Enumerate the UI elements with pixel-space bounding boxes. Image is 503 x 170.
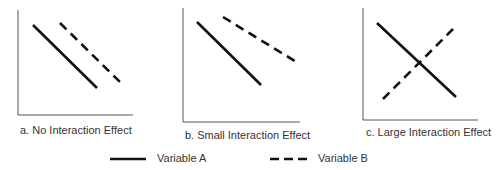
panel-a-variable-b-line (60, 23, 122, 84)
panel-b (183, 8, 300, 122)
panel-b-caption: b. Small Interaction Effect (185, 129, 310, 141)
legend-variable-b-label: Variable B (318, 152, 368, 164)
panel-b-variable-a-line (197, 22, 261, 85)
panel-c-caption: c. Large Interaction Effect (366, 126, 491, 138)
legend-variable-a-label: Variable A (157, 152, 206, 164)
panel-c (363, 8, 478, 120)
panel-a-caption: a. No Interaction Effect (20, 124, 132, 136)
panel-a-variable-a-line (33, 25, 97, 88)
panel-a (18, 10, 133, 115)
interaction-effects-figure (0, 0, 503, 170)
panel-c-variable-a-line (377, 23, 456, 97)
panel-b-variable-b-line (223, 17, 298, 63)
